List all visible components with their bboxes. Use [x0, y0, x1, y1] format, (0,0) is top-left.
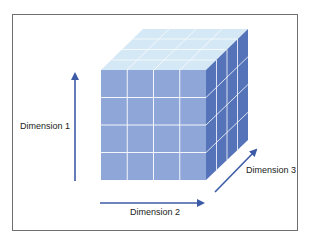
dimension-1-label: Dimension 1	[20, 121, 70, 131]
dimension-2-label: Dimension 2	[130, 207, 180, 217]
dimension-3-label: Dimension 3	[246, 165, 296, 175]
cube-diagram	[0, 0, 310, 237]
